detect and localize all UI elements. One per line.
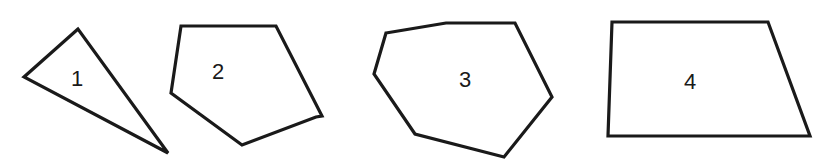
shape-2-label: 2: [212, 59, 224, 84]
shape-4-group: 4: [608, 22, 810, 136]
shape-3-label: 3: [459, 67, 471, 92]
shape-1-label: 1: [71, 66, 83, 91]
shape-2-group: 2: [171, 26, 322, 145]
shape-1-group: 1: [24, 29, 168, 153]
shape-3-group: 3: [374, 23, 552, 157]
shape-4-trapezoid: [608, 22, 810, 136]
shape-1-triangle: [24, 29, 168, 153]
shape-4-label: 4: [684, 69, 696, 94]
shapes-diagram: 1 2 3 4: [0, 0, 840, 168]
shape-2-pentagon: [171, 26, 322, 145]
